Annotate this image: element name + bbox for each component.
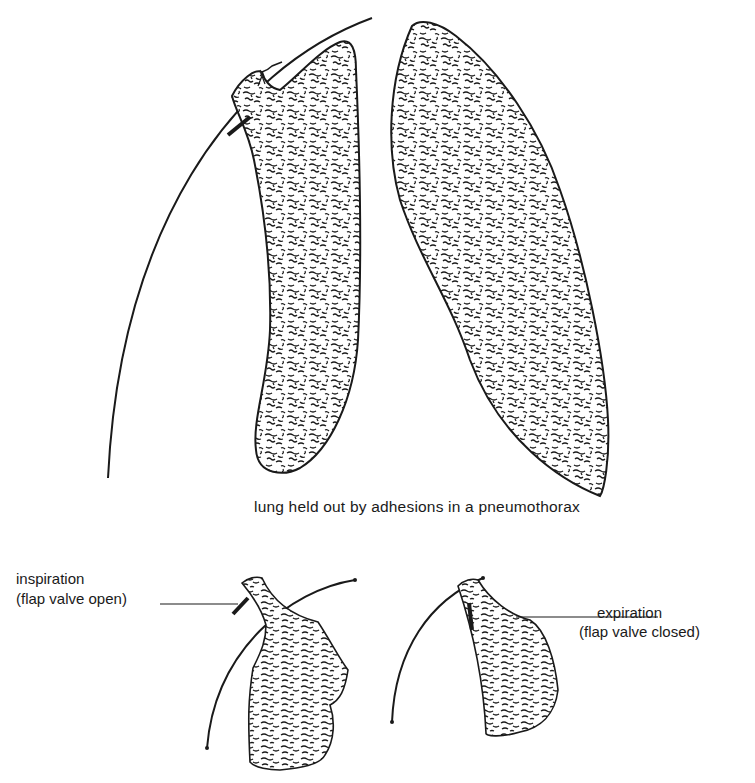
main-caption: lung held out by adhesions in a pneumoth… xyxy=(254,497,580,516)
inspiration-valve-open xyxy=(233,598,248,614)
expiration-lung xyxy=(458,579,558,736)
inspiration-lung xyxy=(242,577,348,770)
contralateral-lung xyxy=(391,22,608,496)
expiration-label: expiration xyxy=(597,603,662,622)
inspiration-sublabel: (flap valve open) xyxy=(16,589,127,608)
diagram-svg xyxy=(0,0,755,783)
inset-expiration xyxy=(390,576,658,736)
collapsed-lung xyxy=(232,41,360,472)
inspiration-label: inspiration xyxy=(16,569,84,588)
pneumothorax-diagram: lung held out by adhesions in a pneumoth… xyxy=(0,0,755,783)
expiration-sublabel: (flap valve closed) xyxy=(579,622,700,641)
inset-inspiration xyxy=(160,577,357,770)
main-figure xyxy=(108,18,608,496)
